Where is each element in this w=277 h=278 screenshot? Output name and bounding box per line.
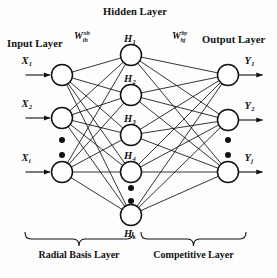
node-label-sub-xi: i: [29, 157, 31, 164]
output-layer-title: Output Layer: [202, 34, 265, 45]
weight-input-hidden-label: Wxhih: [74, 30, 92, 41]
node-label-sub-h2: 2: [132, 78, 135, 85]
node-x2: [52, 108, 73, 129]
ellipsis-dot-hidden-1: [128, 198, 134, 204]
node-yj: [218, 162, 239, 183]
node-label-sub-x2: 2: [29, 103, 32, 110]
ellipsis-dot-output-1: [225, 152, 231, 158]
node-xi: [52, 162, 73, 183]
node-label-sub-y1: 1: [251, 60, 254, 67]
node-label-base-h1: H: [124, 33, 132, 44]
node-x1: [52, 65, 73, 86]
node-y1: [218, 65, 239, 86]
node-label-h2: H2: [124, 73, 135, 84]
weight-ih-base: W: [74, 30, 83, 41]
neural-network-diagram: Input Layer Hidden Layer Output Layer Wx…: [0, 0, 277, 278]
node-label-h4: H4: [124, 150, 135, 161]
weight-ih-superscript: xh: [83, 30, 89, 36]
node-h3: [121, 125, 142, 146]
bracket-label-radial-basis: Radial Basis Layer: [25, 249, 133, 260]
node-h4: [121, 162, 142, 183]
node-label-base-hk: H: [124, 228, 132, 239]
node-y2: [218, 110, 239, 131]
node-label-y1: Y1: [245, 55, 255, 66]
node-label-sub-yj: j: [251, 157, 253, 164]
hidden-layer-title: Hidden Layer: [103, 6, 167, 17]
node-label-x1: X1: [22, 55, 32, 66]
node-label-h3: H3: [124, 113, 135, 124]
input-layer-title: Input Layer: [7, 38, 63, 49]
bracket-competitive: [141, 232, 246, 246]
node-label-base-h3: H: [124, 113, 132, 124]
node-label-base-x1: X: [22, 55, 29, 66]
node-hk: [121, 205, 142, 226]
node-label-base-h2: H: [124, 73, 132, 84]
node-label-sub-hk: k: [132, 233, 135, 240]
node-label-yj: Yj: [245, 152, 253, 163]
node-label-base-y1: Y: [245, 55, 251, 66]
input-to-hidden-edges: [67, 58, 127, 210]
weight-ih-subscript: ih: [83, 37, 88, 43]
node-label-y2: Y2: [245, 100, 255, 111]
weight-hj-subscript: hj: [180, 37, 185, 43]
weight-hidden-output-label: Whyhj: [172, 30, 190, 41]
node-label-xi: Xi: [22, 152, 31, 163]
node-label-sub-y2: 2: [251, 105, 254, 112]
ellipsis-dot-hidden-0: [128, 185, 134, 191]
node-label-h1: H1: [124, 33, 135, 44]
node-label-base-y2: Y: [245, 100, 251, 111]
ellipsis-dot-output-0: [225, 137, 231, 143]
ellipsis-dot-input-0: [59, 137, 65, 143]
bracket-radial-basis: [25, 232, 133, 246]
node-label-sub-h4: 4: [132, 155, 135, 162]
node-label-base-x2: X: [22, 98, 29, 109]
node-label-sub-h1: 1: [132, 38, 135, 45]
node-label-base-xi: X: [22, 152, 29, 163]
node-h1: [121, 45, 142, 66]
weight-hj-superscript: hy: [181, 30, 187, 36]
bracket-label-competitive: Competitive Layer: [141, 249, 246, 260]
node-label-base-h4: H: [124, 150, 132, 161]
node-label-base-yj: Y: [245, 152, 251, 163]
hidden-to-output-edges: [137, 57, 222, 211]
node-label-sub-h3: 3: [132, 118, 135, 125]
node-h2: [121, 85, 142, 106]
node-label-x2: X2: [22, 98, 32, 109]
ellipsis-dot-input-1: [59, 152, 65, 158]
node-label-sub-x1: 1: [29, 60, 32, 67]
node-label-hk: Hk: [124, 228, 135, 239]
